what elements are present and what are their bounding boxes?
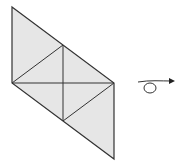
- parallelogram-net: [12, 7, 114, 159]
- diagram-canvas: [0, 0, 183, 165]
- rotation-arrow-icon: [138, 78, 175, 93]
